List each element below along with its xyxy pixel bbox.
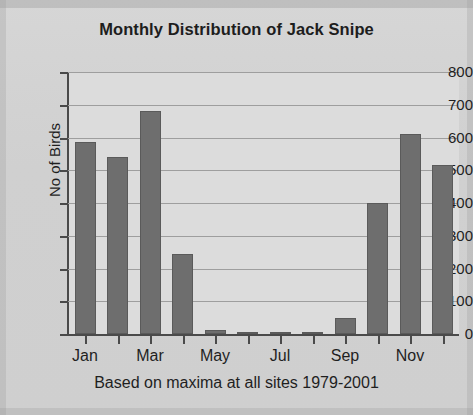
chart-screenshot: Monthly Distribution of Jack Snipe 01002… — [0, 0, 473, 415]
bar-series — [69, 72, 459, 334]
x-axis-tick — [280, 336, 282, 344]
x-axis-tick-label-sep: Sep — [315, 347, 375, 365]
bar-feb — [107, 157, 128, 334]
y-axis-tick — [60, 269, 68, 271]
bar-mar — [140, 111, 161, 334]
x-axis-tick-label-jul: Jul — [250, 347, 310, 365]
x-axis-tick — [378, 336, 380, 344]
bar-may — [205, 330, 226, 334]
bar-jun — [237, 332, 258, 334]
x-axis-caption: Based on maxima at all sites 1979-2001 — [0, 374, 473, 392]
x-axis-tick — [118, 336, 120, 344]
bar-aug — [302, 332, 323, 334]
bar-jul — [270, 332, 291, 334]
x-axis-tick — [85, 336, 87, 344]
x-axis-tick — [183, 336, 185, 344]
bar-jan — [75, 142, 96, 334]
bar-sep — [335, 318, 356, 334]
x-axis-tick — [410, 336, 412, 344]
x-axis-tick-label-mar: Mar — [120, 347, 180, 365]
y-axis-tick — [60, 236, 68, 238]
x-axis-tick — [313, 336, 315, 344]
bar-oct — [367, 203, 388, 334]
x-axis-tick — [345, 336, 347, 344]
x-axis-tick-label-jan: Jan — [55, 347, 115, 365]
x-axis-tick-label-nov: Nov — [380, 347, 440, 365]
scan-edge-bottom — [0, 408, 473, 415]
bar-nov — [400, 134, 421, 334]
x-axis-line — [67, 334, 459, 336]
y-axis-tick — [60, 72, 68, 74]
y-axis-title: No of Birds — [46, 100, 66, 220]
x-axis-tick — [215, 336, 217, 344]
bar-dec — [432, 165, 453, 334]
x-axis-tick — [248, 336, 250, 344]
x-axis-tick — [443, 336, 445, 344]
x-axis-tick-label-may: May — [185, 347, 245, 365]
chart-title: Monthly Distribution of Jack Snipe — [0, 20, 473, 39]
scan-edge-top — [0, 0, 473, 8]
y-axis-tick — [60, 301, 68, 303]
bar-apr — [172, 254, 193, 334]
scan-edge-left — [0, 0, 6, 415]
x-axis-tick — [150, 336, 152, 344]
